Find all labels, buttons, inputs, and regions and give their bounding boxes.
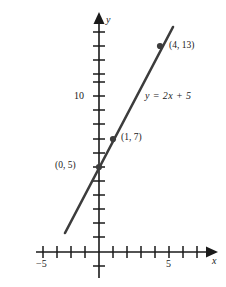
line-graph [65,27,173,233]
point-label-1-7: (1, 7) [121,133,142,143]
x-axis [36,246,218,258]
graph-figure: y x 10 −5 5 (0, 5) (1, 7) (4, 13) y = 2x… [0,0,226,287]
x-tick-label-5: 5 [166,259,171,269]
x-axis-label: x [212,256,216,266]
y-tick-label-10: 10 [74,91,84,101]
data-point-1-7 [110,136,116,142]
y-axis-arrowhead [94,12,105,24]
data-point-0-5 [96,164,102,170]
data-point-4-13 [157,43,163,49]
y-axis [93,12,105,278]
y-axis-label: y [106,15,110,25]
x-tick-label-minus5: −5 [36,259,47,269]
data-points [96,43,163,170]
equation-label: y = 2x + 5 [145,91,191,101]
point-label-4-13: (4, 13) [169,41,194,51]
point-label-0-5: (0, 5) [55,161,76,171]
